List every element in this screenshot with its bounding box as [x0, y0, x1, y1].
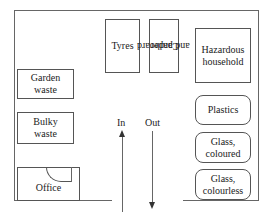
office-door-jamb: [71, 167, 72, 182]
cardboard-paper-label: Cardboard and paper: [152, 25, 176, 67]
in-arrow-head-icon: [119, 130, 125, 137]
out-arrow-shaft: [152, 131, 153, 203]
boundary-top: [14, 10, 259, 11]
glass-coloured-area: Glass, coloured: [195, 132, 251, 163]
out-label: Out: [145, 117, 160, 128]
out-arrow-head-icon: [149, 202, 155, 209]
cardboard-paper-area: Cardboard and paper: [149, 19, 179, 73]
boundary-bottom-right: [183, 200, 259, 201]
tyres-area: Tyres: [105, 19, 140, 73]
hazardous-household-area: Hazardous household: [195, 28, 251, 83]
boundary-left: [14, 10, 15, 201]
boundary-right: [258, 10, 259, 201]
tyres-label: Tyres: [111, 40, 133, 52]
glass-colourless-area: Glass, colourless: [195, 169, 251, 200]
plastics-area: Plastics: [195, 95, 251, 125]
in-label: In: [117, 117, 125, 128]
bulky-waste-area: Bulky waste: [17, 112, 74, 144]
garden-waste-area: Garden waste: [17, 69, 74, 99]
in-arrow-shaft: [122, 136, 123, 212]
